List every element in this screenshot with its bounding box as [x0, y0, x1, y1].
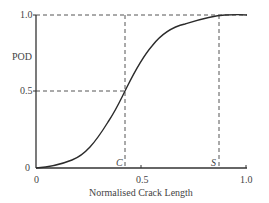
y-tick-label-0: 0: [25, 163, 30, 173]
pod-chart: [0, 0, 269, 203]
y-tick-label-1: 1.0: [20, 10, 33, 20]
y-tick-label-half: 0.5: [20, 86, 33, 96]
c-marker-label: C: [116, 158, 123, 168]
x-tick-label-half: 0.5: [136, 175, 149, 185]
x-tick-label-0: 0: [34, 175, 39, 185]
y-axis-label: POD: [12, 52, 32, 62]
x-axis-label: Normalised Crack Length: [89, 188, 193, 198]
x-tick-label-1: 1.0: [240, 175, 253, 185]
s-marker-label: S: [211, 158, 216, 168]
